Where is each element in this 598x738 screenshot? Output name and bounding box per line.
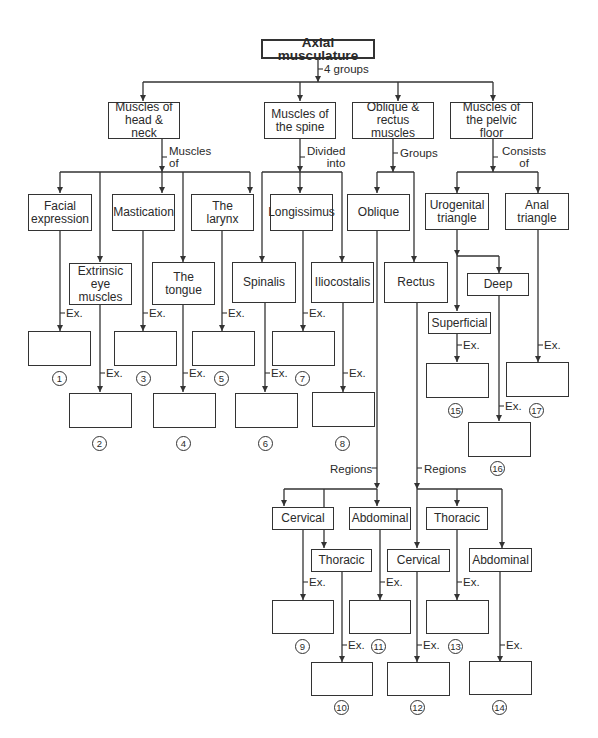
label-ex: Ex. [348, 639, 365, 651]
node-facial-expression: Facial expression [28, 194, 92, 231]
answer-number-9: 9 [295, 639, 310, 654]
answer-box-16[interactable] [468, 422, 531, 457]
label-consists-of: Consists of [502, 145, 546, 169]
label-ex: Ex. [149, 307, 166, 319]
answer-box-4[interactable] [153, 393, 216, 428]
label-ex: Ex. [309, 307, 326, 319]
answer-box-1[interactable] [28, 331, 91, 366]
answer-box-17[interactable] [506, 362, 569, 397]
node-urogenital-triangle: Urogenital triangle [425, 193, 489, 230]
label-ex: Ex. [505, 400, 522, 412]
node-iliocostalis: Iliocostalis [311, 262, 374, 303]
answer-box-8[interactable] [312, 392, 375, 427]
node-rectus: Rectus [384, 262, 448, 303]
answer-number-10: 10 [334, 700, 349, 715]
node-rectus-thoracic: Thoracic [426, 507, 488, 530]
label-ex: Ex. [106, 367, 123, 379]
node-oblique-rectus: Oblique & rectus muscles [352, 102, 434, 139]
answer-number-13: 13 [448, 639, 463, 654]
answer-box-3[interactable] [114, 331, 177, 366]
label-ex: Ex. [66, 307, 83, 319]
label-regions-oblique: Regions [330, 463, 372, 475]
answer-number-11: 11 [371, 639, 386, 654]
node-head-neck: Muscles of head & neck [108, 102, 180, 139]
answer-box-9[interactable] [272, 600, 334, 634]
answer-number-4: 4 [176, 436, 191, 451]
axial-musculature-concept-map: Axial musculature 4 groups Muscles of he… [0, 0, 598, 738]
answer-box-14[interactable] [469, 661, 532, 695]
answer-number-14: 14 [492, 700, 507, 715]
label-groups: Groups [400, 147, 438, 159]
answer-box-5[interactable] [192, 331, 255, 366]
label-ex: Ex. [228, 307, 245, 319]
node-rectus-cervical: Cervical [387, 549, 450, 572]
label-ex: Ex. [544, 339, 561, 351]
answer-number-12: 12 [410, 700, 425, 715]
label-divided-into: Divided into [307, 145, 345, 169]
label-4-groups: 4 groups [324, 63, 369, 75]
answer-box-7[interactable] [272, 331, 335, 366]
answer-number-5: 5 [214, 371, 229, 386]
answer-number-2: 2 [92, 436, 107, 451]
answer-number-3: 3 [136, 371, 151, 386]
node-oblique-thoracic: Thoracic [311, 549, 372, 572]
answer-number-8: 8 [335, 436, 350, 451]
node-spinalis: Spinalis [232, 262, 296, 303]
node-anal-triangle: Anal triangle [505, 193, 569, 230]
node-tongue: The tongue [152, 262, 215, 305]
answer-number-6: 6 [258, 436, 273, 451]
label-ex: Ex. [189, 367, 206, 379]
label-ex: Ex. [506, 639, 523, 651]
node-longissimus: Longissimus [270, 194, 333, 231]
label-ex: Ex. [463, 339, 480, 351]
answer-box-6[interactable] [235, 393, 298, 428]
label-regions-rectus: Regions [424, 463, 466, 475]
label-ex: Ex. [309, 576, 326, 588]
label-ex: Ex. [271, 367, 288, 379]
node-extrinsic-eye-muscles: Extrinsic eye muscles [69, 263, 132, 305]
node-deep: Deep [467, 273, 529, 296]
answer-number-16: 16 [490, 461, 505, 476]
answer-box-2[interactable] [69, 393, 132, 428]
node-oblique-abdominal: Abdominal [349, 507, 411, 530]
node-pelvic-floor: Muscles of the pelvic floor [450, 102, 533, 139]
node-superficial: Superficial [428, 312, 491, 334]
answer-number-17: 17 [529, 403, 544, 418]
answer-number-7: 7 [295, 371, 310, 386]
answer-box-15[interactable] [426, 363, 489, 398]
node-rectus-abdominal: Abdominal [469, 548, 532, 572]
answer-box-10[interactable] [311, 662, 373, 696]
answer-number-15: 15 [448, 403, 463, 418]
node-larynx: The larynx [191, 194, 254, 231]
label-ex: Ex. [423, 639, 440, 651]
label-ex: Ex. [386, 576, 403, 588]
node-spine: Muscles of the spine [264, 102, 336, 139]
node-oblique-cervical: Cervical [272, 507, 334, 530]
node-oblique: Oblique [347, 194, 410, 231]
answer-box-12[interactable] [387, 662, 450, 696]
root-node-axial-musculature: Axial musculature [261, 39, 375, 59]
answer-number-1: 1 [52, 371, 67, 386]
node-mastication: Mastication [112, 194, 175, 231]
label-ex: Ex. [463, 576, 480, 588]
answer-box-11[interactable] [349, 600, 411, 634]
label-ex: Ex. [349, 367, 366, 379]
answer-box-13[interactable] [426, 600, 489, 634]
label-muscles-of: Muscles of [169, 145, 211, 169]
